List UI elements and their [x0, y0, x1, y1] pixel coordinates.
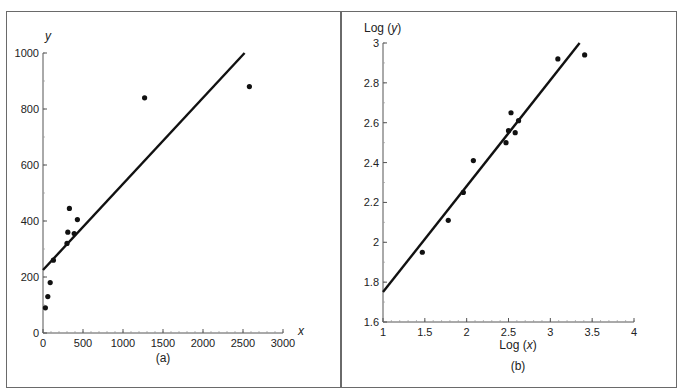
- data-point: [513, 130, 518, 135]
- y-tick-label: 400: [21, 215, 39, 227]
- data-point: [75, 217, 80, 222]
- y-tick-label: 2.4: [364, 157, 379, 169]
- chart-b-plot-area: 11.522.533.541.61.822.22.42.62.83: [364, 37, 637, 338]
- y-tick-label: 1.8: [364, 276, 379, 288]
- chart-a-caption: (a): [156, 351, 171, 365]
- y-tick-label: 1.6: [364, 316, 379, 328]
- data-point: [471, 158, 476, 163]
- x-tick-label: 1500: [151, 337, 175, 349]
- x-tick-label: 500: [74, 337, 92, 349]
- y-tick-label: 2.8: [364, 77, 379, 89]
- data-point: [555, 56, 560, 61]
- data-point: [65, 230, 70, 235]
- y-tick-label: 2.6: [364, 117, 379, 129]
- chart-a-xlabel: x: [297, 324, 305, 338]
- data-point: [43, 305, 48, 310]
- x-tick-label: 1000: [111, 337, 135, 349]
- y-tick-label: 2.2: [364, 196, 379, 208]
- x-tick-label: 1: [380, 326, 386, 338]
- x-tick-label: 3000: [271, 337, 295, 349]
- chart-b-xlabel: Log (x): [499, 338, 536, 352]
- charts-canvas: y x (a) Log (y) Log (x) (b) 050010001500…: [0, 0, 682, 392]
- y-tick-label: 3: [373, 37, 379, 49]
- data-point: [45, 294, 50, 299]
- chart-a-plot-area: 0500100015002000250030000200400600800100…: [15, 47, 296, 349]
- x-tick-label: 2: [464, 326, 470, 338]
- data-point: [142, 95, 147, 100]
- x-tick-label: 2.5: [501, 326, 516, 338]
- x-tick-label: 1.5: [417, 326, 432, 338]
- data-point: [446, 218, 451, 223]
- y-tick-label: 1000: [15, 47, 39, 59]
- data-point: [420, 250, 425, 255]
- y-tick-label: 0: [33, 327, 39, 339]
- y-tick-label: 800: [21, 103, 39, 115]
- fit-line: [383, 43, 580, 292]
- x-tick-label: 4: [631, 326, 637, 338]
- data-point: [247, 84, 252, 89]
- data-point: [67, 206, 72, 211]
- data-point: [503, 140, 508, 145]
- y-tick-label: 2: [373, 236, 379, 248]
- data-point: [582, 52, 587, 57]
- data-point: [48, 280, 53, 285]
- x-tick-label: 3: [547, 326, 553, 338]
- y-tick-label: 600: [21, 159, 39, 171]
- chart-b-caption: (b): [511, 359, 526, 373]
- chart-a-ylabel: y: [44, 29, 52, 43]
- fit-line: [43, 53, 245, 270]
- x-tick-label: 2000: [191, 337, 215, 349]
- chart-b-ylabel: Log (y): [364, 21, 401, 35]
- data-point: [508, 110, 513, 115]
- x-tick-label: 0: [40, 337, 46, 349]
- y-tick-label: 200: [21, 271, 39, 283]
- x-tick-label: 3.5: [585, 326, 600, 338]
- x-tick-label: 2500: [231, 337, 255, 349]
